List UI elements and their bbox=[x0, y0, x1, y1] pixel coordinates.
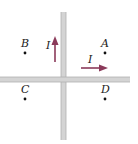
point-b-dot bbox=[24, 52, 27, 55]
point-d-label: D bbox=[100, 83, 110, 96]
point-a-label: A bbox=[100, 37, 109, 50]
point-a-dot bbox=[104, 52, 107, 55]
two-wire-diagram: I I B A C D bbox=[0, 0, 138, 144]
horizontal-current-label: I bbox=[87, 53, 93, 66]
vertical-current-label: I bbox=[45, 39, 51, 52]
point-c-dot bbox=[24, 98, 27, 101]
point-b-label: B bbox=[20, 37, 29, 50]
horizontal-wire bbox=[0, 77, 130, 82]
vertical-wire bbox=[61, 12, 66, 140]
vertical-current-arrow-icon bbox=[52, 36, 59, 62]
point-c-label: C bbox=[21, 83, 30, 96]
horizontal-current-arrow-icon bbox=[81, 65, 108, 72]
point-d-dot bbox=[104, 98, 107, 101]
